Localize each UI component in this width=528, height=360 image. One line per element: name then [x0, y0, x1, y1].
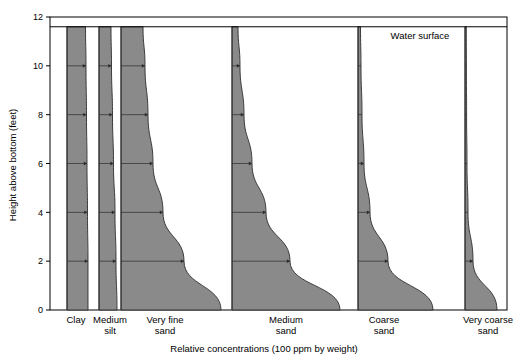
category-label-line2: sand	[478, 325, 499, 336]
y-axis-tick-label: 0	[38, 305, 43, 315]
band-clay	[67, 27, 88, 310]
category-label-line2: sand	[276, 325, 297, 336]
category-label: Medium	[269, 314, 303, 325]
x-axis-title: Relative concentrations (100 ppm by weig…	[170, 343, 357, 354]
category-label: Coarse	[369, 314, 400, 325]
category-label: Very coarse	[463, 314, 513, 325]
y-axis-tick-label: 10	[33, 61, 43, 71]
sediment-concentration-chart: 024681012 ClayMediumsiltVery finesandMed…	[0, 0, 528, 360]
category-label: Medium	[93, 314, 127, 325]
category-label: Clay	[66, 314, 85, 325]
y-axis-tick-label: 8	[38, 110, 43, 120]
water-surface-annotation: Water surface	[391, 30, 450, 41]
y-axis-tick-label: 2	[38, 256, 43, 266]
y-axis-tick-label: 4	[38, 208, 43, 218]
category-label-line2: sand	[155, 325, 176, 336]
y-axis-tick-label: 12	[33, 12, 43, 22]
category-label-line2: silt	[104, 325, 116, 336]
y-axis-title: Height above bottom (feet)	[7, 109, 18, 221]
chart-figure: 024681012 ClayMediumsiltVery finesandMed…	[0, 0, 528, 360]
category-label-line2: sand	[374, 325, 395, 336]
y-axis-tick-label: 6	[38, 159, 43, 169]
category-label: Very fine	[147, 314, 184, 325]
